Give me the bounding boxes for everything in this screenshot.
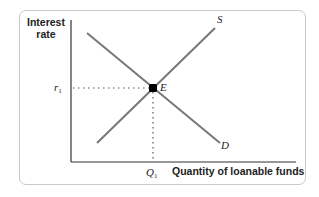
quantity-subscript: 1 (154, 172, 158, 180)
demand-label: D (221, 139, 229, 151)
rate-subscript: 1 (58, 87, 62, 95)
supply-label: S (217, 13, 223, 25)
x-axis-label: Quantity of loanable funds (172, 165, 304, 177)
y-axis-label: Interest rate (22, 16, 70, 40)
y-axis-label-line1: Interest (22, 16, 70, 28)
y-axis-label-line2: rate (22, 28, 70, 40)
equilibrium-point (149, 84, 157, 92)
equilibrium-label: E (160, 81, 167, 93)
quantity-symbol: Q (146, 166, 154, 178)
quantity-q1-label: Q1 (146, 166, 157, 180)
rate-r1-label: r1 (54, 81, 62, 95)
